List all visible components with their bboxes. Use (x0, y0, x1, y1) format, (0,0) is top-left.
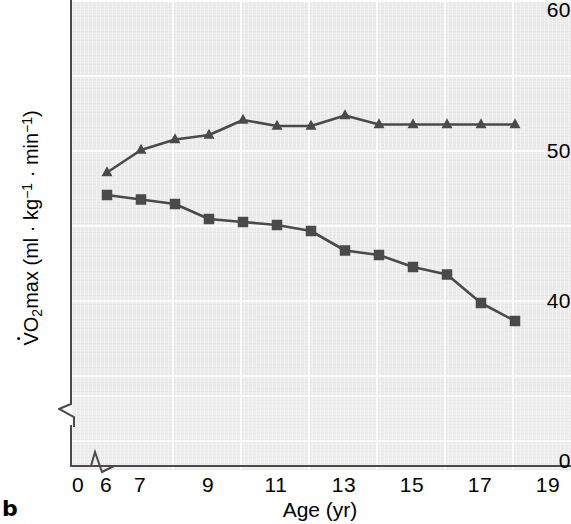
y-axis-title: VO2max (ml · kg−1 · min−1) (19, 28, 45, 428)
data-point-square-age-11 (272, 220, 283, 231)
x-tick-label-19: 19 (528, 474, 568, 495)
y-title-min: · min (20, 133, 42, 183)
y-title-o: O (20, 317, 42, 333)
y-axis-line (70, 0, 72, 404)
data-point-square-age-12 (306, 226, 317, 237)
data-point-square-age-6 (102, 190, 113, 201)
data-point-square-age-18 (510, 316, 521, 327)
panel-letter-b: b (2, 496, 18, 521)
y-axis-line-lower (70, 425, 72, 465)
y-title-close: ) (20, 110, 42, 117)
x-axis-line (70, 465, 571, 467)
data-point-square-age-13 (340, 245, 351, 256)
data-point-square-age-15 (408, 262, 419, 273)
y-title-sup-1: −1 (19, 183, 35, 199)
y-tick-label-50: 50 (507, 140, 571, 161)
y-tick-label-40: 40 (507, 290, 571, 311)
y-tick-label-60: 60 (507, 0, 571, 20)
data-point-square-age-8 (170, 199, 181, 210)
x-tick-label-7: 7 (120, 474, 160, 495)
y-axis-break-mark (58, 396, 88, 428)
data-point-square-age-9 (204, 214, 215, 225)
data-point-square-age-10 (238, 217, 249, 228)
v-dot-glyph: V (20, 332, 43, 345)
data-series-layer (72, 0, 571, 470)
data-point-square-age-16 (442, 269, 453, 280)
plot-area (72, 0, 571, 470)
series-line-girls (107, 195, 515, 321)
x-axis-break-mark (84, 448, 118, 474)
y-title-max: max (ml · kg (20, 199, 42, 309)
data-point-square-age-17 (476, 298, 487, 309)
x-tick-label-13: 13 (324, 474, 364, 495)
y-title-subscript-2: 2 (29, 309, 45, 317)
x-tick-label-17: 17 (460, 474, 500, 495)
data-point-triangle-age-13 (340, 109, 351, 119)
x-tick-label-9: 9 (188, 474, 228, 495)
figure-panel-b: 60 50 40 0 0 6 7 9 11 13 15 17 19 VO2max… (0, 0, 571, 524)
x-tick-label-15: 15 (392, 474, 432, 495)
data-point-square-age-7 (136, 194, 147, 205)
y-title-sup-2: −1 (19, 117, 35, 133)
x-axis-title: Age (yr) (180, 498, 460, 522)
data-point-triangle-age-10 (238, 114, 249, 124)
y-tick-label-0: 0 (507, 450, 571, 471)
x-tick-label-11: 11 (256, 474, 296, 495)
data-point-square-age-14 (374, 250, 385, 261)
